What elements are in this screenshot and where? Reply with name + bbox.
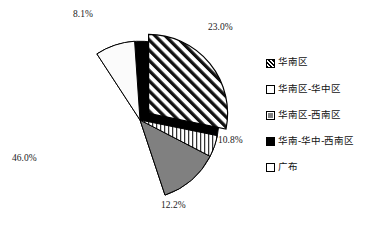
- pie-slice-hua-nan-exploded-group: [149, 34, 228, 129]
- legend-item-guang-bu[interactable]: 广布: [266, 155, 371, 181]
- data-label-hua-nan: 23.0%: [208, 22, 233, 32]
- data-label-guang-bu: 8.1%: [73, 9, 93, 19]
- legend-item-hua-nan-hua-zhong[interactable]: 华南区-华中区: [266, 76, 371, 102]
- legend-swatch-white2-icon: [266, 163, 275, 172]
- legend-item-hua-nan-xi-nan[interactable]: 华南区-西南区: [266, 102, 371, 128]
- legend-swatch-gray-icon: [266, 111, 275, 120]
- pie-chart-figure: 8.1% 23.0% 10.8% 46.0% 12.2% 华南区 华南区-华中区…: [0, 0, 371, 231]
- legend-swatch-white-icon: [266, 85, 275, 94]
- pie-slice-hua-nan: [149, 34, 228, 129]
- legend-item-hua-nan[interactable]: 华南区: [266, 50, 371, 76]
- legend-swatch-hatch-icon: [266, 59, 275, 68]
- legend-item-hua-nan-hua-zhong-xi-nan[interactable]: 华南-华中-西南区: [266, 129, 371, 155]
- data-label-hua-nan-hua-zhong-xi-nan: 46.0%: [12, 153, 37, 163]
- legend-label-hua-nan-hua-zhong: 华南区-华中区: [278, 85, 341, 95]
- legend-label-hua-nan-xi-nan: 华南区-西南区: [278, 111, 341, 121]
- chart-legend: 华南区 华南区-华中区 华南区-西南区 华南-华中-西南区 广布: [266, 50, 371, 181]
- legend-swatch-black-icon: [266, 137, 275, 146]
- legend-label-guang-bu: 广布: [278, 163, 298, 173]
- legend-label-hua-nan-hua-zhong-xi-nan: 华南-华中-西南区: [278, 137, 354, 147]
- legend-label-hua-nan: 华南区: [278, 58, 308, 68]
- data-label-hua-nan-hua-zhong: 10.8%: [218, 135, 243, 145]
- data-label-hua-nan-xi-nan: 12.2%: [161, 200, 186, 210]
- pie-slice-guang-bu: [97, 41, 140, 120]
